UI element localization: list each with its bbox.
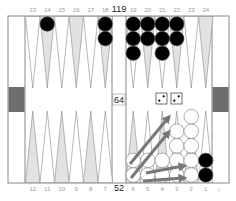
point-label-top: 13 — [29, 7, 36, 13]
point-label-bottom: 9 — [75, 186, 79, 192]
black-checker[interactable] — [140, 17, 155, 32]
black-checker[interactable] — [155, 31, 170, 46]
white-checker[interactable] — [155, 153, 170, 168]
black-checker[interactable] — [126, 46, 141, 61]
white-checker[interactable] — [184, 139, 199, 154]
point-label-top: 17 — [87, 7, 94, 13]
point-label-bottom: 7 — [104, 186, 108, 192]
white-checker[interactable] — [184, 109, 199, 124]
point-label-top: 23 — [188, 7, 195, 13]
right-tray-block — [213, 87, 229, 112]
point-label-bottom: 3 — [175, 186, 179, 192]
point-label-bottom: 1 — [204, 186, 208, 192]
black-checker[interactable] — [198, 168, 213, 183]
white-checker[interactable] — [184, 168, 199, 183]
point-label-top: 18 — [102, 7, 109, 13]
point-label-bottom: 2 — [190, 186, 194, 192]
point-label-top: 24 — [202, 7, 209, 13]
black-checker[interactable] — [169, 31, 184, 46]
black-checker[interactable] — [126, 17, 141, 32]
black-checker[interactable] — [155, 46, 170, 61]
backgammon-board: 1314151617181920212223241211109876543211… — [0, 0, 236, 201]
black-checker[interactable] — [40, 17, 55, 32]
die-pip — [158, 100, 160, 102]
black-checker[interactable] — [98, 17, 113, 32]
pip-count-bottom: 52 — [114, 183, 124, 193]
black-checker[interactable] — [198, 153, 213, 168]
black-checker[interactable] — [126, 31, 141, 46]
black-checker[interactable] — [155, 17, 170, 32]
point-label-bottom: 11 — [44, 186, 51, 192]
white-checker[interactable] — [169, 124, 184, 139]
pip-count-top: 119 — [112, 4, 126, 14]
point-label-bottom: 5 — [146, 186, 150, 192]
point-label-top: 19 — [130, 7, 137, 13]
die-face — [156, 93, 167, 104]
white-checker[interactable] — [169, 139, 184, 154]
point-label-bottom: 4 — [161, 186, 165, 192]
point-label-top: 22 — [173, 7, 180, 13]
die-pip — [178, 95, 180, 97]
cube-value: 64 — [114, 95, 124, 105]
white-checker[interactable] — [184, 124, 199, 139]
black-checker[interactable] — [140, 31, 155, 46]
left-tray-block — [9, 87, 25, 112]
die[interactable] — [156, 93, 167, 104]
point-label-bottom: 10 — [58, 186, 65, 192]
point-label-top: 15 — [58, 7, 65, 13]
point-label-top: 21 — [159, 7, 166, 13]
point-label-bottom: 6 — [132, 186, 136, 192]
point-label-top: 16 — [73, 7, 80, 13]
die[interactable] — [171, 93, 182, 104]
point-label-bottom: 8 — [89, 186, 93, 192]
bear-off-indicator: ○ — [217, 187, 221, 193]
die-face — [171, 93, 182, 104]
white-checker[interactable] — [184, 153, 199, 168]
point-label-bottom: 12 — [29, 186, 36, 192]
die-pip — [173, 100, 175, 102]
black-checker[interactable] — [169, 17, 184, 32]
point-label-top: 20 — [144, 7, 151, 13]
point-label-top: 14 — [44, 7, 51, 13]
die-pip — [163, 95, 165, 97]
black-checker[interactable] — [98, 31, 113, 46]
